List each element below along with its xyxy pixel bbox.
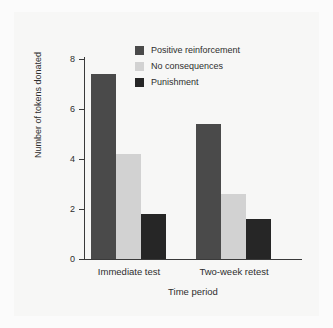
x-axis-spine (84, 259, 302, 260)
y-tick-mark-2 (79, 209, 84, 210)
x-tick-label-two-week-retest: Two-week retest (188, 266, 280, 277)
legend-swatch-icon-positive-reinforcement (135, 46, 144, 55)
bar-retest-no-consequences (221, 194, 246, 259)
legend-item-punishment: Punishment (135, 75, 240, 89)
y-tick-label-6: 6 (57, 105, 75, 114)
legend-swatch-icon-punishment (135, 78, 144, 87)
y-axis-spine (84, 57, 85, 260)
y-tick-label-4: 4 (57, 155, 75, 164)
x-axis-title: Time period (84, 286, 302, 297)
chart-legend: Positive reinforcement No consequences P… (135, 43, 240, 91)
y-tick-mark-8 (79, 59, 84, 60)
legend-label-positive-reinforcement: Positive reinforcement (151, 46, 240, 55)
y-tick-label-2: 2 (57, 205, 75, 214)
legend-item-no-consequences: No consequences (135, 59, 240, 73)
plot-area: 0 2 4 6 8 Immediate test Two-week retest… (0, 0, 333, 328)
bar-retest-positive-reinforcement (196, 124, 221, 259)
y-axis-title: Number of tokens donated (33, 25, 43, 185)
y-tick-mark-6 (79, 109, 84, 110)
bar-immediate-positive-reinforcement (91, 74, 116, 259)
legend-label-no-consequences: No consequences (151, 62, 223, 71)
y-tick-label-0: 0 (57, 255, 75, 264)
legend-item-positive-reinforcement: Positive reinforcement (135, 43, 240, 57)
bar-retest-punishment (246, 219, 271, 259)
y-tick-mark-4 (79, 159, 84, 160)
chart-figure: 0 2 4 6 8 Immediate test Two-week retest… (0, 0, 333, 328)
y-tick-label-8: 8 (57, 55, 75, 64)
bar-immediate-punishment (141, 214, 166, 259)
bar-immediate-no-consequences (116, 154, 141, 259)
x-tick-label-immediate-test: Immediate test (83, 266, 175, 277)
legend-swatch-icon-no-consequences (135, 62, 144, 71)
legend-label-punishment: Punishment (151, 78, 199, 87)
y-tick-mark-0 (79, 259, 84, 260)
